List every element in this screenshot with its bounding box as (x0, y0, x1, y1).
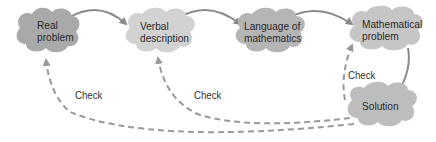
node-text-line2: description (140, 32, 189, 44)
node-text-line1: Verbal (140, 20, 189, 32)
node-label-real-problem: Real problem (37, 19, 74, 43)
node-text-line1: Real (37, 19, 74, 31)
node-label-solution: Solution (362, 100, 399, 112)
check-label-math: Check (348, 69, 375, 81)
node-label-verbal-description: Verbal description (140, 20, 189, 44)
check-arrow-solution-to-verbal (158, 58, 350, 123)
node-label-language-of-mathematics: Language of mathematics (244, 20, 301, 44)
check-label-real: Check (75, 89, 102, 101)
node-text-line1: Language of (244, 20, 301, 32)
node-text-line1: Solution (362, 100, 399, 112)
node-text-line2: problem (362, 30, 422, 42)
node-text-line1: Mathematical (362, 18, 422, 30)
node-text-line2: mathematics (244, 32, 301, 44)
check-label-verbal: Check (194, 89, 221, 101)
node-label-mathematical-problem: Mathematical problem (362, 18, 422, 42)
node-text-line2: problem (37, 31, 74, 43)
